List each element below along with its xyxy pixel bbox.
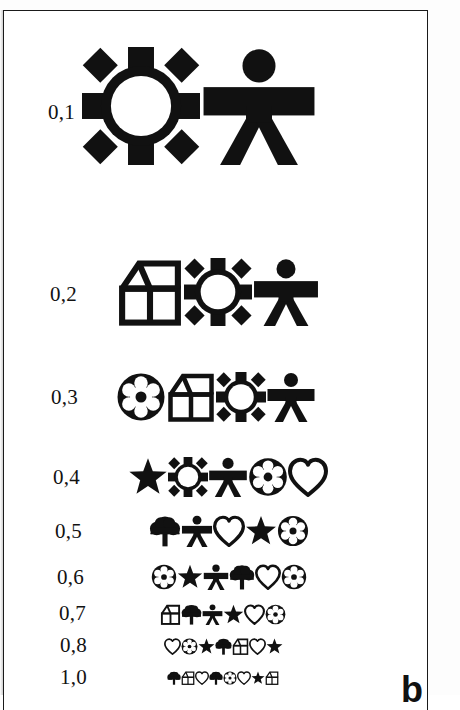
star-symbol [223, 604, 244, 625]
ball-symbol [151, 564, 177, 590]
house-symbol [166, 372, 216, 422]
ball-symbol [248, 457, 288, 497]
circle-symbol [82, 47, 200, 165]
symbol-row [160, 604, 286, 625]
acuity-label: 1,0 [60, 667, 87, 688]
ball-symbol [265, 604, 286, 625]
panel-letter-label: b [401, 672, 423, 708]
heart-symbol [249, 638, 266, 655]
person-symbol [208, 457, 248, 497]
acuity-label: 0,1 [48, 102, 75, 123]
symbol-row [149, 515, 309, 547]
star-symbol [251, 671, 265, 685]
tree-symbol [209, 671, 223, 685]
symbol-row [82, 47, 318, 165]
house-symbol [232, 638, 249, 655]
ball-symbol [223, 671, 237, 685]
person-symbol [202, 604, 223, 625]
circle-symbol [216, 372, 266, 422]
ball-symbol [277, 515, 309, 547]
house-symbol [181, 671, 195, 685]
heart-symbol [195, 671, 209, 685]
heart-symbol [288, 457, 328, 497]
symbol-row [116, 372, 316, 422]
tree-symbol [215, 638, 232, 655]
acuity-label: 0,6 [57, 567, 84, 588]
tree-symbol [229, 564, 255, 590]
tree-symbol [181, 604, 202, 625]
star-symbol [245, 515, 277, 547]
tree-symbol [149, 515, 181, 547]
heart-symbol [255, 564, 281, 590]
acuity-label: 0,3 [51, 387, 78, 408]
acuity-label: 0,7 [59, 603, 86, 624]
heart-symbol [213, 515, 245, 547]
star-symbol [177, 564, 203, 590]
heart-symbol [244, 604, 265, 625]
person-symbol [252, 258, 320, 326]
circle-symbol [184, 258, 252, 326]
heart-symbol [237, 671, 251, 685]
chart-frame: 0,10,20,30,40,50,60,70,81,0 b [3, 10, 428, 710]
ball-symbol [181, 638, 198, 655]
symbol-row [128, 457, 328, 497]
symbol-row [164, 638, 283, 655]
circle-symbol [168, 457, 208, 497]
acuity-label: 0,4 [53, 467, 80, 488]
acuity-label: 0,8 [60, 635, 87, 656]
tree-symbol [167, 671, 181, 685]
house-symbol [116, 258, 184, 326]
person-symbol [200, 47, 318, 165]
person-symbol [203, 564, 229, 590]
symbol-row [116, 258, 320, 326]
acuity-label: 0,5 [55, 521, 82, 542]
acuity-row-list: 0,10,20,30,40,50,60,70,81,0 [4, 11, 429, 696]
symbol-row [167, 671, 279, 685]
symbol-row [151, 564, 307, 590]
star-symbol [128, 457, 168, 497]
heart-symbol [164, 638, 181, 655]
person-symbol [181, 515, 213, 547]
star-symbol [266, 638, 283, 655]
star-symbol [198, 638, 215, 655]
ball-symbol [116, 372, 166, 422]
house-symbol [265, 671, 279, 685]
house-symbol [160, 604, 181, 625]
person-symbol [266, 372, 316, 422]
acuity-label: 0,2 [50, 284, 77, 305]
ball-symbol [281, 564, 307, 590]
